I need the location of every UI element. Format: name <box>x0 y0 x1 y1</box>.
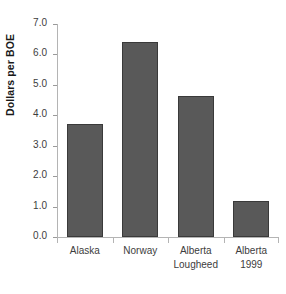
y-axis-tick: 1.0 <box>53 207 57 208</box>
bars-layer <box>57 24 279 237</box>
x-axis-label: Alberta1999 <box>224 244 280 271</box>
x-axis-tick <box>113 238 114 243</box>
bar <box>178 96 214 237</box>
bar-chart: Dollars per BOE 7.06.05.04.03.02.01.00.0… <box>0 0 286 294</box>
y-axis-title: Dollars per BOE <box>4 0 16 116</box>
y-axis-tick-label: 6.0 <box>33 47 47 58</box>
x-axis-label-line: Alberta <box>235 245 267 256</box>
x-axis-label-line: Alaska <box>70 245 100 256</box>
bar <box>122 42 158 237</box>
x-axis-tick <box>278 238 279 243</box>
y-axis-tick: 3.0 <box>53 146 57 147</box>
x-axis-tick <box>168 238 169 243</box>
y-axis-tick: 4.0 <box>53 115 57 116</box>
y-axis-tick-label: 4.0 <box>33 108 47 119</box>
bar <box>233 201 269 238</box>
y-axis-tick: 5.0 <box>53 85 57 86</box>
y-axis-tick-label: 5.0 <box>33 78 47 89</box>
bar <box>67 124 103 237</box>
y-axis-tick-label: 2.0 <box>33 169 47 180</box>
y-axis-tick: 7.0 <box>53 24 57 25</box>
y-axis-tick: 2.0 <box>53 176 57 177</box>
x-axis-tick <box>224 238 225 243</box>
plot-area: 7.06.05.04.03.02.01.00.0 <box>57 24 279 237</box>
y-axis-tick: 6.0 <box>53 54 57 55</box>
x-axis-label: Alaska <box>57 244 113 258</box>
x-axis-labels: AlaskaNorwayAlbertaLougheedAlberta1999 <box>57 244 279 288</box>
y-axis-tick-label: 0.0 <box>33 230 47 241</box>
x-axis-label-line: Alberta <box>180 245 212 256</box>
x-axis-label-line: Norway <box>123 245 157 256</box>
x-axis-label-line: 1999 <box>224 258 280 272</box>
x-axis-tick <box>57 238 58 243</box>
y-axis-tick-label: 7.0 <box>33 17 47 28</box>
x-axis-label-line: Lougheed <box>168 258 224 272</box>
y-axis-tick-label: 3.0 <box>33 139 47 150</box>
x-axis-label: Norway <box>113 244 169 258</box>
x-axis-label: AlbertaLougheed <box>168 244 224 271</box>
y-axis-tick-label: 1.0 <box>33 200 47 211</box>
